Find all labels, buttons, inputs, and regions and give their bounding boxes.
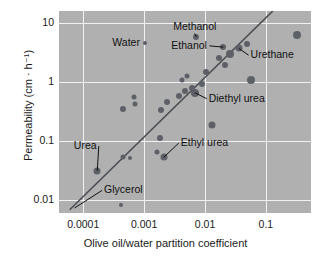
data-point-unlabeled-19 [222,62,228,68]
data-point-unlabeled-20 [226,50,234,58]
x-tick-label-0.001: 0.001 [131,218,157,230]
data-point-ethyl-urea [160,154,167,161]
data-point-water [143,41,147,45]
data-point-urethane [235,45,242,52]
data-point-unlabeled-11 [182,88,188,94]
data-point-unlabeled-9 [164,99,170,105]
annotation-ethanol: Ethanol [171,39,207,51]
data-point-ethanol [220,44,226,50]
permeability-scatter-figure: Permeability (cm · h⁻¹) 1010.10.01 Water… [0,0,331,264]
annotation-ethyl-urea: Ethyl urea [181,136,228,148]
data-point-unlabeled-13 [184,73,189,78]
y-tick-label-10: 10 [0,16,54,28]
annotation-urea: Urea [74,139,97,151]
data-point-unlabeled-7 [133,102,138,107]
annotation-urethane: Urethane [251,48,294,60]
x-tick-label-0.1: 0.1 [259,218,274,230]
data-point-unlabeled-6 [131,94,136,99]
data-point-urea [94,167,101,174]
data-point-unlabeled-1 [121,154,126,159]
data-point-unlabeled-15 [199,81,205,87]
data-point-glycerol [119,203,123,207]
annotation-diethyl-urea: Diethyl urea [209,92,265,104]
plot-area: WaterMethanolEthanolUrethaneDiethyl urea… [59,11,311,213]
data-point-unlabeled-22 [247,76,255,84]
data-point-unlabeled-23 [293,31,301,39]
x-axis-title: Olive oil/water partition coefficient [0,237,331,249]
data-point-unlabeled-5 [120,106,126,112]
annotation-methanol: Methanol [173,20,216,32]
annotation-water: Water [112,36,140,48]
data-point-unlabeled-3 [154,149,159,154]
y-tick-label-1: 1 [0,75,54,87]
y-axis-title: Permeability (cm · h⁻¹) [22,11,35,201]
data-point-unlabeled-4 [157,135,163,141]
data-point-unlabeled-18 [216,55,222,61]
data-point-unlabeled-12 [180,77,185,82]
data-point-unlabeled-2 [128,156,132,160]
x-tick-label-0.01: 0.01 [195,218,215,230]
data-point-unlabeled-10 [176,93,182,99]
data-point-unlabeled-16 [203,69,209,75]
x-tick-label-0.0001: 0.0001 [67,218,99,230]
data-point-unlabeled-8 [158,107,164,113]
y-tick-label-0.01: 0.01 [0,193,54,205]
y-tick-label-0.1: 0.1 [0,134,54,146]
data-point-unlabeled-17 [208,122,215,129]
annotation-glycerol: Glycerol [104,183,143,195]
data-point-diethyl-urea [191,89,199,97]
data-point-unlabeled-21 [244,41,250,47]
